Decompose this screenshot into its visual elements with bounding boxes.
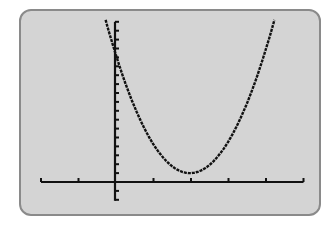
parabola-curve [106,20,275,173]
graph-plot [0,0,333,227]
